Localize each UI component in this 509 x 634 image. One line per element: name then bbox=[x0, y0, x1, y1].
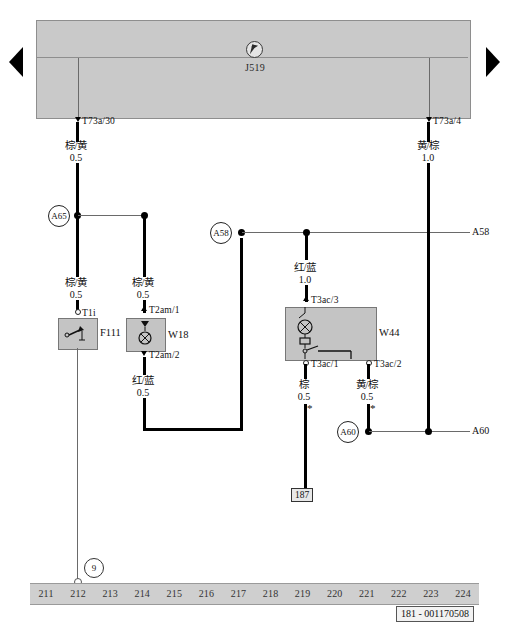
ruler-cell: 218 bbox=[255, 584, 287, 604]
module-label-j519: J519 bbox=[215, 62, 295, 73]
lamp-symbol-w18-icon bbox=[126, 318, 164, 350]
wire-bus-w18-to-a58 bbox=[143, 428, 243, 431]
component-label-w18: W18 bbox=[168, 329, 188, 340]
wire-label-w18-bottom: 红/蓝 0.5 bbox=[113, 375, 173, 398]
junction-link-a65 bbox=[78, 215, 144, 216]
wire-gauge-w18-bottom: 0.5 bbox=[113, 387, 173, 399]
pin-arrow-t2am1-icon bbox=[141, 306, 147, 311]
connector-label-t73a30: T73a/30 bbox=[82, 116, 115, 126]
ruler-cell: 216 bbox=[190, 584, 222, 604]
wire-gauge-f111: 0.5 bbox=[46, 289, 106, 301]
connector-label-t3ac1: T3ac/1 bbox=[311, 359, 339, 369]
ruler-cell: 219 bbox=[287, 584, 319, 604]
wire-segment-t73a30-upper bbox=[76, 122, 79, 142]
ruler-cell: 223 bbox=[415, 584, 447, 604]
wire-label-w18-top: 棕/黄 0.5 bbox=[113, 277, 173, 300]
wire-label-t73a4: 黄/棕 1.0 bbox=[398, 140, 458, 163]
wire-segment-w18-top bbox=[143, 215, 146, 277]
ruler-cell: 222 bbox=[383, 584, 415, 604]
wiring-diagram-sheet: J519 T73a/30 棕/黄 0.5 A65 棕/黄 0.5 T1i F11… bbox=[0, 0, 509, 634]
relay-symbol-w44-icon bbox=[285, 307, 375, 359]
component-label-f111: F111 bbox=[100, 327, 121, 338]
wire-color-t73a4: 黄/棕 bbox=[417, 140, 440, 151]
wire-label-w44-top: 红/蓝 1.0 bbox=[275, 262, 335, 285]
wire-gauge-t3ac2: 0.5 bbox=[338, 391, 396, 403]
wire-gauge-t3ac1: 0.5 bbox=[275, 391, 333, 403]
module-pin-line-t73a4 bbox=[429, 58, 430, 117]
pin-arrow-t3ac3-icon bbox=[303, 296, 309, 301]
ruler-cell: 215 bbox=[158, 584, 190, 604]
wire-segment-w44-top-a bbox=[305, 232, 308, 260]
ruler-cell: 217 bbox=[222, 584, 254, 604]
wire-segment-t3ac2 bbox=[367, 364, 370, 379]
wire-label-f111: 棕/黄 0.5 bbox=[46, 277, 106, 300]
edge-label-a60: A60 bbox=[472, 425, 489, 436]
wire-gauge-w44-top: 1.0 bbox=[275, 274, 335, 286]
wire-label-t3ac1: 棕 0.5 bbox=[275, 379, 333, 402]
wire-color-f111: 棕/黄 bbox=[65, 277, 88, 288]
wire-segment-t73a30-lower bbox=[76, 163, 79, 277]
module-pin-line-t73a30 bbox=[78, 58, 79, 117]
asterisk-marker-t3ac2: * bbox=[370, 404, 376, 412]
ruler-cell: 212 bbox=[62, 584, 94, 604]
wire-gauge-w18-top: 0.5 bbox=[113, 289, 173, 301]
wire-color-t3ac1: 棕 bbox=[299, 379, 309, 390]
connector-label-t2am2: T2am/2 bbox=[149, 350, 180, 360]
node-marker-9[interactable]: 9 bbox=[84, 558, 104, 578]
wire-segment-t73a4-upper bbox=[427, 122, 430, 142]
next-page-arrow-icon[interactable] bbox=[486, 47, 500, 77]
connector-label-t3ac2: T3ac/2 bbox=[374, 359, 402, 369]
column-ruler: 211 212 213 214 215 216 217 218 219 220 … bbox=[30, 583, 479, 605]
junction-link-a58 bbox=[242, 232, 470, 233]
wire-segment-t3ac1 bbox=[304, 364, 307, 379]
document-id-label: 181 - 001170508 bbox=[396, 606, 474, 622]
pointer-cursor-icon bbox=[246, 41, 263, 58]
ruler-cell: 224 bbox=[447, 584, 479, 604]
junction-circle-a65[interactable]: A65 bbox=[48, 205, 70, 227]
connector-label-t1i: T1i bbox=[82, 308, 96, 318]
wire-segment-t73a4-lower bbox=[427, 163, 430, 431]
wire-gauge-t73a30: 0.5 bbox=[46, 152, 106, 164]
pin-arrow-t2am2-icon bbox=[141, 351, 147, 356]
asterisk-marker-t3ac1: * bbox=[307, 404, 313, 412]
previous-page-arrow-icon[interactable] bbox=[9, 47, 23, 77]
ruler-cell: 214 bbox=[126, 584, 158, 604]
ruler-cell: 213 bbox=[94, 584, 126, 604]
ruler-cell: 211 bbox=[30, 584, 62, 604]
wire-color-w18-bottom: 红/蓝 bbox=[132, 375, 155, 386]
pin-ring-t1i-icon bbox=[75, 309, 81, 315]
edge-label-a58: A58 bbox=[472, 226, 489, 237]
wire-color-w18-top: 棕/黄 bbox=[132, 277, 155, 288]
ground-target-187[interactable]: 187 bbox=[291, 488, 313, 502]
junction-circle-a60[interactable]: A60 bbox=[337, 421, 359, 443]
ruler-cell: 221 bbox=[351, 584, 383, 604]
wire-segment-t3ac2-to-a60 bbox=[367, 404, 370, 431]
junction-link-a60 bbox=[369, 431, 470, 432]
wire-label-t73a30: 棕/黄 0.5 bbox=[46, 140, 106, 163]
wire-segment-f111-out bbox=[77, 348, 78, 581]
connector-label-t2am1: T2am/1 bbox=[149, 305, 180, 315]
component-label-w44: W44 bbox=[379, 327, 399, 338]
wire-color-t3ac2: 黄/棕 bbox=[356, 379, 379, 390]
wire-color-t73a30: 棕/黄 bbox=[65, 140, 88, 151]
wire-segment-w18-out bbox=[143, 357, 146, 375]
wire-segment-w18-to-bus bbox=[143, 398, 146, 431]
connector-label-t73a4: T73a/4 bbox=[433, 116, 461, 126]
ruler-cell: 220 bbox=[319, 584, 351, 604]
junction-circle-a58[interactable]: A58 bbox=[210, 222, 232, 244]
wire-gauge-t73a4: 1.0 bbox=[398, 152, 458, 164]
connector-label-t3ac3: T3ac/3 bbox=[311, 295, 339, 305]
wire-segment-t3ac1-to-ground bbox=[304, 404, 307, 488]
wire-color-w44-top: 红/蓝 bbox=[294, 262, 317, 273]
wire-riser-a58 bbox=[240, 238, 243, 431]
switch-symbol-f111-icon bbox=[58, 318, 96, 348]
wire-label-t3ac2: 黄/棕 0.5 bbox=[338, 379, 396, 402]
